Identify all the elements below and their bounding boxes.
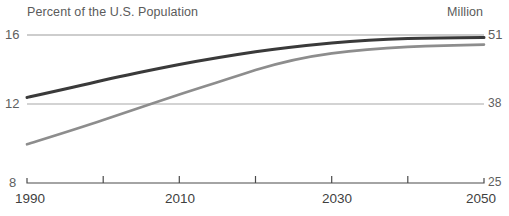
chart-plot-area	[0, 0, 509, 216]
series-line-million	[27, 45, 484, 145]
y-axis-left-tick-8: 8	[9, 176, 16, 189]
right-axis-title: Million	[447, 6, 483, 19]
x-axis-tick-2010: 2010	[165, 192, 195, 206]
y-axis-left-tick-12: 12	[5, 97, 19, 110]
chart-container: Percent of the U.S. Population Million 1…	[0, 0, 509, 216]
y-axis-right-tick-25: 25	[488, 176, 501, 188]
y-axis-right-tick-38: 38	[488, 97, 501, 109]
x-axis-tick-2030: 2030	[322, 192, 352, 206]
y-axis-right-tick-51: 51	[488, 28, 502, 41]
x-axis-tick-2050: 2050	[466, 192, 496, 206]
x-axis-tick-1990: 1990	[15, 192, 45, 206]
y-axis-left-tick-16: 16	[5, 28, 19, 41]
x-axis-ticks	[103, 176, 408, 183]
left-axis-title: Percent of the U.S. Population	[27, 6, 198, 19]
